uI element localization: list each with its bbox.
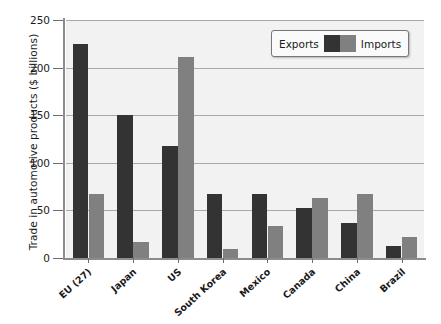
x-tick [88,258,89,263]
y-tick-label: 50 [37,204,50,216]
x-tick [178,258,179,263]
legend-label-exports: Exports [279,38,319,50]
x-tick [312,258,313,263]
y-tick-label: 200 [30,62,50,74]
y-tick-label: 250 [30,14,50,26]
x-tick-label-0: EU (27) [57,266,94,301]
x-axis-line [63,258,426,260]
bar-imports-2 [178,57,194,258]
bar-imports-7 [402,237,418,258]
x-tick [133,258,134,263]
bar-exports-5 [296,208,312,258]
x-tick-label-1: Japan [109,266,139,294]
y-tick-label: 0 [43,252,50,264]
bar-imports-5 [312,198,328,258]
bar-exports-6 [341,223,357,258]
y-tick [53,68,63,69]
x-tick-label-4: Mexico [238,266,273,299]
bar-imports-3 [223,249,239,258]
legend-swatch-exports [324,35,340,52]
x-tick-label-2: US [165,266,183,284]
bar-imports-1 [133,242,149,258]
bar-exports-4 [252,194,268,258]
y-axis-line [63,18,65,260]
x-tick [267,258,268,263]
y-tick [53,115,63,116]
y-tick [53,20,63,21]
legend-label-imports: Imports [361,38,401,50]
bar-imports-0 [89,194,105,258]
y-axis-title: Trade in automotive products ($ billions… [27,17,39,267]
y-tick [53,163,63,164]
chart-legend: Exports Imports [271,30,409,57]
x-tick-label-7: Brazil [377,266,407,295]
bar-imports-4 [268,226,284,258]
legend-swatches [324,35,356,52]
x-tick [223,258,224,263]
bar-imports-6 [357,194,373,258]
bar-exports-3 [207,194,223,258]
legend-swatch-imports [340,35,356,52]
y-tick-label: 100 [30,157,50,169]
bar-exports-2 [162,146,178,258]
bar-exports-0 [73,44,89,258]
x-tick-label-6: China [332,266,362,294]
bar-exports-7 [386,246,402,258]
bar-exports-1 [117,115,133,258]
x-tick-label-5: Canada [281,266,318,301]
bar-chart: Trade in automotive products ($ billions… [0,0,441,324]
y-tick [53,258,63,259]
x-tick [357,258,358,263]
x-tick [402,258,403,263]
y-tick-label: 150 [30,109,50,121]
y-tick [53,210,63,211]
